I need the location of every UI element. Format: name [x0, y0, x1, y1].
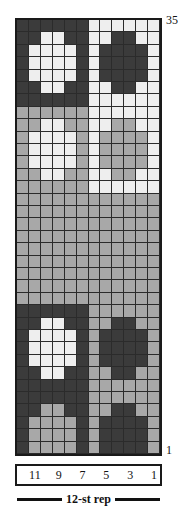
stitch-cell [112, 380, 124, 392]
stitch-cell [53, 169, 65, 181]
stitch-cell [53, 107, 65, 119]
stitch-cell [112, 45, 124, 57]
stitch-cell [112, 32, 124, 44]
stitch-cell [65, 442, 77, 454]
stitch-cell [53, 70, 65, 82]
stitch-cell [112, 256, 124, 268]
stitch-cell [89, 94, 101, 106]
stitch-cell [77, 442, 89, 454]
stitch-cell [124, 231, 136, 243]
stitch-cell [41, 107, 53, 119]
stitch-cell [65, 293, 77, 305]
stitch-cell [148, 392, 160, 404]
stitch-cell [89, 70, 101, 82]
stitch-cell [136, 355, 148, 367]
stitch-cell [136, 169, 148, 181]
stitch-cell [29, 218, 41, 230]
stitch-cell [112, 181, 124, 193]
stitch-cell [124, 119, 136, 131]
stitch-cell [41, 57, 53, 69]
stitch-cell [89, 181, 101, 193]
stitch-cell [89, 32, 101, 44]
stitch-cell [100, 82, 112, 94]
stitch-cell [65, 70, 77, 82]
stitch-cell [17, 119, 29, 131]
stitch-cell [17, 330, 29, 342]
stitch-cell [53, 367, 65, 379]
stitch-cell [53, 404, 65, 416]
stitch-cell [41, 206, 53, 218]
stitch-cell [53, 57, 65, 69]
stitch-cell [112, 169, 124, 181]
repeat-rule-left [17, 498, 62, 501]
stitch-cell [112, 94, 124, 106]
stitch-cell [17, 280, 29, 292]
repeat-rule-right [115, 498, 160, 501]
stitch-cell [112, 355, 124, 367]
stitch-cell [41, 119, 53, 131]
stitch-cell [53, 318, 65, 330]
stitch-cell [136, 107, 148, 119]
stitch-cell [89, 392, 101, 404]
stitch-cell [136, 119, 148, 131]
stitch-cell [65, 429, 77, 441]
stitch-cell [41, 32, 53, 44]
stitch-cell [89, 20, 101, 32]
stitch-cell [100, 367, 112, 379]
stitch-cell [41, 94, 53, 106]
stitch-cell [53, 392, 65, 404]
stitch-cell [17, 45, 29, 57]
stitch-cell [41, 256, 53, 268]
stitch-cell [100, 268, 112, 280]
stitch-cell [100, 20, 112, 32]
stitch-cell [100, 144, 112, 156]
stitch-cell [65, 32, 77, 44]
stitch-cell [112, 57, 124, 69]
stitch-cell [77, 231, 89, 243]
stitch-cell [100, 32, 112, 44]
stitch-cell [77, 342, 89, 354]
stitch-cell [17, 442, 29, 454]
stitch-cell [148, 417, 160, 429]
stitch-cell [41, 132, 53, 144]
stitch-cell [77, 57, 89, 69]
stitch-cell [53, 45, 65, 57]
stitch-cell [148, 404, 160, 416]
stitch-cell [112, 293, 124, 305]
stitch-cell [124, 94, 136, 106]
stitch-cell [124, 20, 136, 32]
stitch-cell [29, 429, 41, 441]
column-number-label: 3 [124, 469, 136, 481]
stitch-cell [124, 293, 136, 305]
stitch-cell [136, 57, 148, 69]
stitch-cell [65, 380, 77, 392]
stitch-cell [77, 181, 89, 193]
stitch-cell [65, 392, 77, 404]
stitch-cell [29, 57, 41, 69]
stitch-cell [65, 330, 77, 342]
stitch-cell [53, 293, 65, 305]
stitch-cell [100, 392, 112, 404]
stitch-cell [100, 119, 112, 131]
stitch-cell [17, 94, 29, 106]
stitch-cell [77, 417, 89, 429]
stitch-cell [136, 293, 148, 305]
stitch-cell [29, 268, 41, 280]
stitch-cell [29, 355, 41, 367]
stitch-cell [29, 231, 41, 243]
stitch-cell [41, 293, 53, 305]
stitch-cell [17, 181, 29, 193]
row-number-top: 35 [166, 14, 178, 26]
stitch-cell [65, 132, 77, 144]
stitch-cell [148, 119, 160, 131]
stitch-cell [65, 268, 77, 280]
stitch-cell [124, 318, 136, 330]
stitch-cell [112, 417, 124, 429]
stitch-cell [41, 45, 53, 57]
stitch-cell [148, 107, 160, 119]
stitch-cell [53, 380, 65, 392]
stitch-cell [77, 156, 89, 168]
stitch-cell [148, 318, 160, 330]
stitch-cell [112, 280, 124, 292]
stitch-cell [65, 119, 77, 131]
